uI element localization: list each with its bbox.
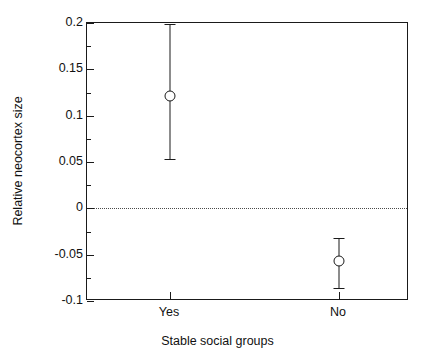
data-point-marker [165,91,176,102]
y-axis-tick-minor [87,232,91,233]
y-axis-tick-major [87,116,94,117]
error-bar-cap-upper [165,24,176,25]
y-axis-tick-label: 0 [76,201,83,214]
y-axis-tick-label: -0.1 [61,294,83,307]
y-axis-tick-major [87,69,94,70]
x-axis-tick-major [339,292,340,299]
x-axis-tick-label: Yes [159,306,179,319]
x-axis-title: Stable social groups [0,334,435,348]
y-axis-tick-minor [87,278,91,279]
y-axis-tick-major [87,255,94,256]
error-bar-cap-upper [333,238,344,239]
x-axis-tick-label: No [330,306,346,319]
y-axis-tick-minor [87,139,91,140]
x-axis-tick-major [170,292,171,299]
y-axis-tick-label: 0.1 [66,109,83,122]
data-point-marker [333,256,344,267]
y-axis-tick-major [87,162,94,163]
y-axis-tick-minor [87,93,91,94]
y-axis-tick-label: 0.2 [66,16,83,29]
y-axis-tick-major [87,208,94,209]
y-axis-title-container: Relative neocortex size [6,0,30,322]
y-axis-title: Relative neocortex size [11,96,25,225]
error-bar-cap-lower [333,288,344,289]
y-axis-tick-major [87,301,94,302]
zero-reference-line [87,208,407,209]
figure-canvas: Relative neocortex size 0.20.150.10.050-… [0,0,435,362]
y-axis-tick-minor [87,185,91,186]
y-axis-tick-label: 0.15 [59,62,83,75]
plot-area [86,22,408,300]
y-axis-tick-minor [87,46,91,47]
y-axis-tick-major [87,23,94,24]
y-axis-tick-label: 0.05 [59,155,83,168]
y-axis-tick-label: -0.05 [55,248,84,261]
error-bar-cap-lower [165,159,176,160]
